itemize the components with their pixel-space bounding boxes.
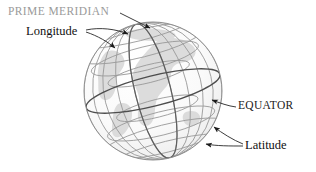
label-longitude: Longitude [26,25,77,38]
label-latitude: Latitude [245,139,287,152]
leader-latitude-upper [214,127,243,144]
label-equator: EQUATOR [238,100,294,112]
leader-latitude-lower [206,144,243,146]
label-prime-meridian: PRIME MERIDIAN [8,6,109,18]
globe-diagram-figure: PRIME MERIDIAN Longitude EQUATOR Latitud… [0,0,316,172]
